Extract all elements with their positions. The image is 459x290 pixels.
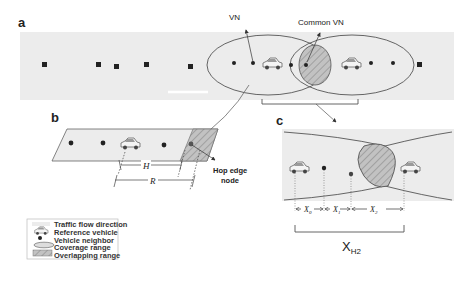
x0-label: X0	[303, 205, 312, 215]
neighbor-node	[322, 166, 326, 170]
common-vn-label: Common VN	[298, 18, 344, 27]
panel-a-letter: a	[18, 15, 26, 30]
hop-edge-label-2: node	[221, 176, 239, 185]
hop-edge-label-1: Hop edge	[213, 166, 247, 175]
panel-c-letter: c	[276, 113, 283, 128]
common-neighbor-node	[349, 172, 353, 176]
dot-icon	[38, 236, 42, 240]
ellipse-icon	[34, 242, 54, 248]
legend: Traffic flow direction Reference vehicle…	[27, 219, 128, 260]
panel-b: b Hop edge node H R	[51, 110, 247, 190]
x2-label: X2	[369, 205, 378, 215]
panel-c: c X0 X1 X2 XH2	[276, 113, 454, 256]
vanet-diagram: a VN Common V	[0, 0, 459, 290]
vn-label: VN	[229, 13, 240, 22]
hatch-icon	[33, 250, 52, 256]
h-label: H	[142, 161, 150, 171]
panel-a: a VN Common V	[18, 13, 454, 145]
connector-to-c	[316, 104, 336, 122]
x1-label: X1	[332, 205, 340, 215]
road-a	[20, 32, 454, 100]
legend-label: Overlapping range	[54, 251, 120, 260]
overlap-region-a	[299, 45, 331, 85]
traffic-flow-icon	[32, 222, 50, 226]
r-label: R	[149, 176, 156, 186]
bracket-c	[295, 225, 404, 232]
xh2-label: XH2	[342, 239, 361, 256]
panel-b-letter: b	[51, 110, 59, 125]
